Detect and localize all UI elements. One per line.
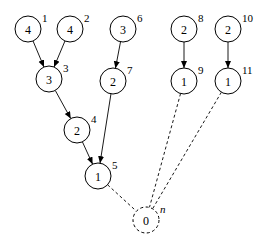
node-index-label: 4 — [91, 113, 97, 125]
tree-node-6: 36 — [110, 12, 143, 42]
tree-node-5: 15 — [85, 159, 118, 189]
node-value: 1 — [95, 170, 101, 184]
node-index-label: 5 — [112, 159, 118, 171]
node-value: 2 — [225, 23, 231, 37]
node-index-label: 3 — [63, 62, 69, 74]
tree-node-9: 19 — [171, 64, 204, 94]
edge-6-to-7 — [115, 42, 120, 68]
edge-11-to-n — [153, 92, 222, 209]
node-value: 0 — [143, 214, 149, 228]
node-index-label: 1 — [42, 12, 48, 24]
tree-node-1: 41 — [15, 12, 48, 42]
node-value: 4 — [67, 23, 73, 37]
tree-node-n: 0n — [133, 203, 166, 233]
node-value: 3 — [46, 73, 52, 87]
tree-node-3: 33 — [36, 62, 69, 92]
edge-9-to-n — [149, 94, 180, 208]
tree-node-11: 111 — [215, 64, 253, 94]
node-value: 2 — [74, 124, 80, 138]
node-index-label: 7 — [127, 64, 133, 76]
tree-node-2: 42 — [57, 12, 90, 42]
node-index-label: 6 — [137, 12, 143, 24]
node-value: 4 — [25, 23, 31, 37]
tree-node-7: 27 — [100, 64, 133, 94]
node-index-label: 9 — [198, 64, 204, 76]
node-value: 1 — [225, 75, 231, 89]
edge-5-to-n — [108, 185, 137, 211]
tree-node-8: 28 — [171, 12, 204, 42]
node-index-label: 2 — [84, 12, 90, 24]
node-index-label: n — [160, 203, 166, 215]
tree-node-10: 210 — [215, 12, 254, 42]
node-value: 3 — [120, 23, 126, 37]
node-index-label: 11 — [242, 64, 253, 76]
edge-7-to-5 — [100, 94, 111, 163]
nodes: 4142332415362728192101110n — [15, 12, 254, 233]
edge-3-to-4 — [55, 90, 70, 118]
node-value: 2 — [110, 75, 116, 89]
node-value: 1 — [181, 75, 187, 89]
node-index-label: 8 — [198, 12, 204, 24]
node-value: 2 — [181, 23, 187, 37]
tree-diagram: 4142332415362728192101110n — [0, 0, 265, 241]
tree-node-4: 24 — [64, 113, 97, 143]
edge-1-to-3 — [33, 41, 44, 67]
edge-4-to-5 — [82, 142, 92, 164]
node-index-label: 10 — [242, 12, 254, 24]
